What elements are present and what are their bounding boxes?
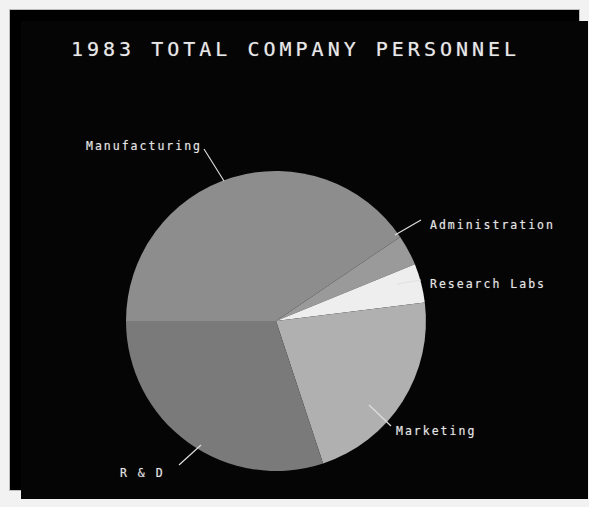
pie-label-marketing: Marketing [396,424,476,438]
leader-line-administration [395,220,421,235]
leader-line-manufacturing [204,149,224,181]
screen-border: 1983 TOTAL COMPANY PERSONNEL [9,9,580,491]
leader-line-rd [179,445,201,465]
pie-label-research-labs: Research Labs [430,277,546,291]
photo-frame: 1983 TOTAL COMPANY PERSONNEL [0,0,589,507]
pie-label-manufacturing: Manufacturing [86,139,202,153]
pie-chart-plot-area: 1983 TOTAL COMPANY PERSONNEL [21,21,588,499]
pie-label-administration: Administration [430,218,555,232]
pie-chart-graphic [21,21,588,499]
pie-label-rd: R & D [120,466,165,480]
